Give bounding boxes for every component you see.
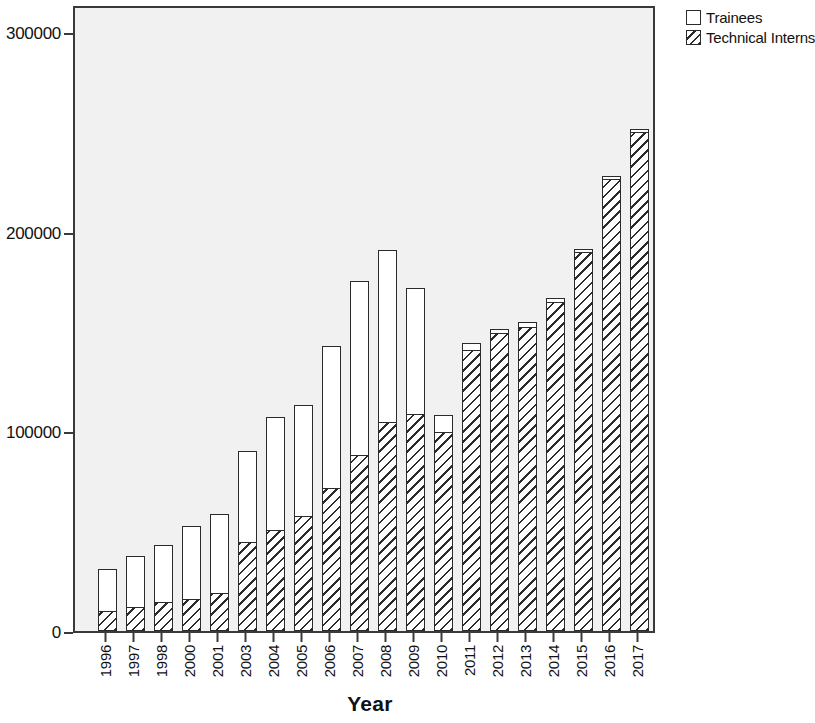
bar-2000 (182, 526, 201, 631)
y-axis-tick-mark (64, 33, 73, 35)
x-axis-tick: 2005 (293, 633, 310, 677)
bar-2006 (322, 345, 341, 631)
bar-segment-trainees (210, 514, 229, 593)
bar-segment-trainees (154, 545, 173, 602)
x-axis-tick-label: 2008 (377, 645, 394, 677)
x-axis-tick-mark (356, 633, 358, 642)
x-axis-tick-mark (216, 633, 218, 642)
x-axis-tick: 2004 (265, 633, 282, 677)
x-axis-tick-mark (524, 633, 526, 642)
x-axis-tick-label: 2009 (405, 645, 422, 677)
y-axis-tick-label: 300000 (6, 24, 64, 44)
x-axis-tick-mark (384, 633, 386, 642)
bar-segment-technical-interns (266, 529, 285, 631)
x-axis-tick-label: 2003 (237, 645, 254, 677)
bar-segment-trainees (406, 288, 425, 415)
x-axis-tick: 2009 (405, 633, 422, 677)
x-axis-tick-label: 2000 (181, 645, 198, 677)
x-axis-tick-mark (580, 633, 582, 642)
x-axis-tick: 2017 (629, 633, 646, 677)
x-axis-tick: 2006 (321, 633, 338, 677)
x-axis-tick: 2007 (349, 633, 366, 677)
bar-2016 (602, 176, 621, 631)
bar-segment-technical-interns (434, 431, 453, 631)
bar-segment-trainees (518, 322, 537, 328)
x-axis-tick: 1998 (153, 633, 170, 677)
x-axis-tick-mark (608, 633, 610, 642)
bar-segment-trainees (574, 249, 593, 253)
x-axis-title: Year (0, 692, 740, 716)
x-axis-tick: 2011 (461, 633, 478, 676)
x-axis-tick-mark (244, 633, 246, 642)
bar-segment-trainees (378, 250, 397, 423)
y-axis-tick-label: 200000 (6, 224, 64, 244)
bar-segment-technical-interns (406, 413, 425, 631)
bar-segment-technical-interns (154, 601, 173, 631)
bar-2012 (490, 329, 509, 631)
x-axis-tick: 2013 (517, 633, 534, 677)
bar-2017 (630, 129, 649, 631)
empty-square-icon (686, 10, 701, 25)
x-axis-tick: 2012 (489, 633, 506, 677)
bar-segment-technical-interns (574, 252, 593, 631)
legend-item: Trainees (686, 9, 815, 26)
x-axis-tick-label: 2006 (321, 645, 338, 677)
x-axis-tick-mark (104, 633, 106, 642)
x-axis-tick-label: 2004 (265, 645, 282, 677)
x-axis-tick: 2016 (601, 633, 618, 677)
bar-segment-trainees (238, 451, 257, 542)
x-axis-tick-mark (132, 633, 134, 642)
bar-2011 (462, 342, 481, 631)
x-axis-tick-label: 2013 (517, 645, 534, 677)
x-axis-tick-mark (468, 633, 470, 642)
x-axis-tick: 2015 (573, 633, 590, 677)
bar-2013 (518, 322, 537, 631)
bar-segment-trainees (490, 329, 509, 334)
bar-segment-technical-interns (350, 454, 369, 631)
bar-segment-technical-interns (294, 515, 313, 631)
bar-segment-technical-interns (322, 487, 341, 631)
bar-1998 (154, 545, 173, 631)
x-axis-tick-label: 2012 (489, 645, 506, 677)
bar-segment-technical-interns (378, 421, 397, 631)
bar-2005 (294, 405, 313, 631)
bar-1997 (126, 556, 145, 631)
legend-item-label: Technical Interns (706, 29, 815, 46)
x-axis-tick-mark (160, 633, 162, 642)
x-axis-tick-label: 2010 (433, 645, 450, 677)
bar-segment-trainees (462, 343, 481, 351)
x-axis-tick: 2008 (377, 633, 394, 677)
x-axis-tick-label: 1998 (153, 645, 170, 677)
x-axis-tick-mark (300, 633, 302, 642)
bar-1996 (98, 569, 117, 631)
bar-segment-technical-interns (462, 349, 481, 631)
x-axis-tick-label: 1996 (97, 645, 114, 677)
bar-segment-technical-interns (490, 333, 509, 632)
bar-2007 (350, 281, 369, 631)
x-axis-tick: 1996 (97, 633, 114, 677)
x-axis-tick-label: 2017 (629, 645, 646, 677)
bar-segment-trainees (434, 415, 453, 432)
bar-segment-technical-interns (98, 610, 117, 631)
x-axis-tick: 2001 (209, 633, 226, 677)
x-axis-tick: 1997 (125, 633, 142, 677)
bar-segment-technical-interns (602, 179, 621, 631)
bar-segment-trainees (126, 556, 145, 607)
x-axis-tick: 2010 (433, 633, 450, 677)
bar-segment-technical-interns (126, 606, 145, 631)
x-axis-tick-label: 2016 (601, 645, 618, 677)
chart-legend: TraineesTechnical Interns (686, 9, 815, 46)
bar-segment-trainees (350, 281, 369, 456)
bar-segment-trainees (630, 129, 649, 133)
x-axis-tick-mark (328, 633, 330, 642)
x-axis-tick-mark (188, 633, 190, 642)
bar-segment-trainees (294, 405, 313, 516)
bar-segment-trainees (322, 346, 341, 489)
legend-item: Technical Interns (686, 29, 815, 46)
x-axis-tick-label: 2001 (209, 645, 226, 677)
x-axis-tick: 2003 (237, 633, 254, 677)
bar-segment-trainees (602, 176, 621, 180)
x-axis-tick-label: 2011 (461, 645, 478, 676)
bars-layer (75, 8, 653, 631)
x-axis-tick-mark (440, 633, 442, 642)
